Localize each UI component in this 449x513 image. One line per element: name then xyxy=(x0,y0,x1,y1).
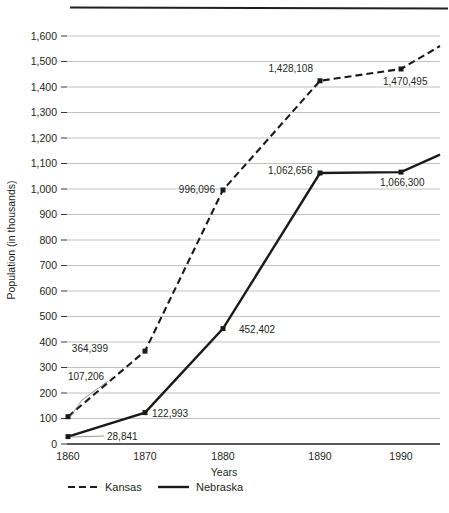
y-axis-title: Population (in thousands) xyxy=(5,180,17,299)
label-nebraska-1990: 1,066,300 xyxy=(380,177,425,188)
label-kansas-1990: 1,470,495 xyxy=(383,76,428,87)
x-axis-title: Years xyxy=(211,466,237,478)
label-nebraska-1860: 28,841 xyxy=(107,431,138,442)
y-tick-1400: 1,400 xyxy=(31,81,57,93)
y-tick-1000: 1,000 xyxy=(31,183,57,195)
y-tick-1100: 1,100 xyxy=(31,157,57,169)
y-tick-800: 800 xyxy=(39,234,57,246)
y-tick-900: 900 xyxy=(39,208,57,220)
y-tick-500: 500 xyxy=(39,310,57,322)
y-tick-100: 100 xyxy=(39,412,57,424)
x-tick-1890: 1890 xyxy=(308,450,332,462)
y-tick-1300: 1,300 xyxy=(31,106,57,118)
label-kansas-1880: 996,096 xyxy=(179,184,216,195)
legend-label-kansas: Kansas xyxy=(105,481,142,493)
x-tick-1870: 1870 xyxy=(133,450,157,462)
y-tick-1600: 1,600 xyxy=(31,30,57,42)
y-tick-200: 200 xyxy=(39,387,57,399)
top-divider-rule xyxy=(70,8,448,9)
label-nebraska-1880: 452,402 xyxy=(239,324,276,335)
x-tick-1880: 1880 xyxy=(211,450,235,462)
y-tick-400: 400 xyxy=(39,336,57,348)
label-kansas-1890: 1,428,108 xyxy=(269,63,314,74)
label-kansas-1870: 364,399 xyxy=(72,343,109,354)
y-tick-300: 300 xyxy=(39,361,57,373)
x-tick-1990: 1990 xyxy=(389,450,413,462)
x-tick-1860: 1860 xyxy=(56,450,80,462)
y-tick-1200: 1,200 xyxy=(31,132,57,144)
y-tick-700: 700 xyxy=(39,259,57,271)
y-tick-600: 600 xyxy=(39,285,57,297)
label-nebraska-1870: 122,993 xyxy=(152,408,189,419)
label-nebraska-1890: 1,062,656 xyxy=(268,165,313,176)
y-tick-1500: 1,500 xyxy=(31,55,57,67)
population-line-chart: 1,600 1,500 1,400 1,300 1,200 1,100 1,00… xyxy=(0,0,449,513)
legend-label-nebraska: Nebraska xyxy=(196,481,244,493)
label-kansas-1860: 107,206 xyxy=(68,371,105,382)
y-tick-0: 0 xyxy=(51,438,57,450)
